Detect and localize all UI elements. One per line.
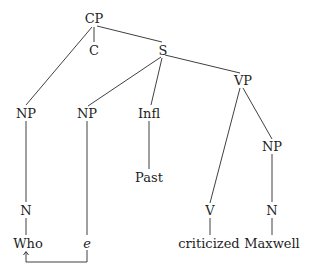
edge-cp-s xyxy=(97,26,162,42)
node-infl: Infl xyxy=(138,107,160,120)
word-e-trace: e xyxy=(83,237,91,250)
node-s: S xyxy=(159,44,168,57)
word-who: Who xyxy=(13,237,43,250)
tree-edges xyxy=(0,0,310,274)
node-n-obj: N xyxy=(266,204,277,217)
node-cp: CP xyxy=(85,12,104,25)
node-v: V xyxy=(205,204,214,217)
node-np-subj: NP xyxy=(77,107,97,120)
node-np-obj: NP xyxy=(262,140,282,153)
edge-vp-np xyxy=(243,88,272,139)
node-n-wh: N xyxy=(20,204,31,217)
edge-cp-np xyxy=(26,27,92,105)
node-past: Past xyxy=(135,171,163,184)
node-np-wh: NP xyxy=(16,107,36,120)
syntax-tree-diagram: CP C S VP NP NP Infl NP Past N V N Who e… xyxy=(0,0,310,274)
word-criticized: criticized xyxy=(178,237,239,250)
edge-s-infl xyxy=(151,58,162,105)
word-maxwell: Maxwell xyxy=(244,237,300,250)
node-c: C xyxy=(89,44,99,57)
edge-s-np xyxy=(88,57,161,106)
movement-arrow xyxy=(26,250,87,262)
edge-s-vp xyxy=(165,55,240,73)
edge-vp-v xyxy=(210,88,240,203)
node-vp: VP xyxy=(234,74,252,87)
